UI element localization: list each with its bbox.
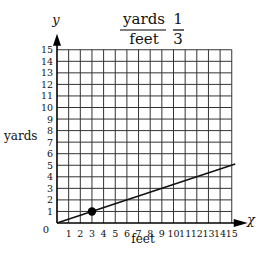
y-tick-label: 1 xyxy=(47,206,53,217)
data-point xyxy=(88,207,96,215)
x-tick-label: 9 xyxy=(159,228,165,239)
x-tick-label: 15 xyxy=(226,228,238,239)
y-tick-label: 15 xyxy=(41,44,53,55)
y-axis-arrow-icon xyxy=(53,34,61,46)
y-tick-label: 6 xyxy=(47,148,53,159)
y-tick-label: 4 xyxy=(47,171,53,182)
x-axis-arrow-icon xyxy=(234,219,248,227)
y-axis-symbol: y xyxy=(51,12,60,27)
x-tick-label: 14 xyxy=(214,228,226,239)
y-tick-label: 9 xyxy=(47,114,53,125)
x-tick-label: 13 xyxy=(202,228,214,239)
y-tick-label: 13 xyxy=(41,67,53,78)
x-tick-label: 3 xyxy=(89,228,95,239)
y-tick-label: 12 xyxy=(41,79,53,90)
y-tick-label: 2 xyxy=(47,194,53,205)
title-denominator: feet xyxy=(129,30,158,48)
chart-svg: 1234567891011121314151234567891011121314… xyxy=(0,0,265,261)
x-axis-label: feet xyxy=(131,232,155,246)
x-tick-label: 6 xyxy=(124,228,130,239)
title-value-numerator: 1 xyxy=(173,10,183,28)
title-value-denominator: 3 xyxy=(173,30,183,48)
x-tick-label: 11 xyxy=(179,228,191,239)
y-axis-label: yards xyxy=(3,129,38,143)
x-tick-label: 4 xyxy=(101,228,107,239)
title-numerator: yards xyxy=(122,10,165,28)
y-tick-label: 3 xyxy=(47,183,53,194)
y-tick-label: 8 xyxy=(47,125,53,136)
x-tick-label: 10 xyxy=(167,228,179,239)
x-axis-symbol: χ xyxy=(246,212,256,227)
origin-label: 0 xyxy=(43,224,49,235)
y-tick-label: 10 xyxy=(41,102,53,113)
y-tick-label: 11 xyxy=(41,90,53,101)
x-tick-label: 5 xyxy=(112,228,118,239)
x-tick-label: 1 xyxy=(66,228,72,239)
x-tick-label: 12 xyxy=(191,228,203,239)
y-tick-label: 5 xyxy=(47,160,53,171)
x-tick-label: 2 xyxy=(77,228,83,239)
y-tick-label: 7 xyxy=(47,137,53,148)
chart: 1234567891011121314151234567891011121314… xyxy=(0,0,265,261)
y-tick-label: 14 xyxy=(41,56,53,67)
